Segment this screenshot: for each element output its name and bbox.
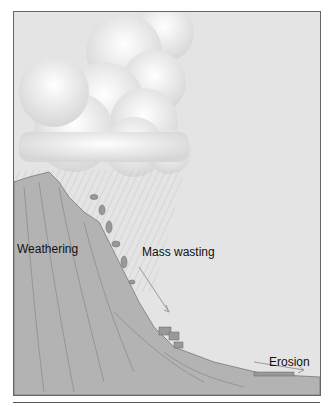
erosion-label: Erosion [269,355,310,369]
diagram-frame: Weathering Mass wasting Erosion [13,11,321,396]
cloud [19,12,194,177]
landscape-illustration [14,12,320,395]
divider-rule [13,402,320,403]
mass-wasting-label: Mass wasting [142,245,215,259]
weathering-label: Weathering [17,242,78,256]
